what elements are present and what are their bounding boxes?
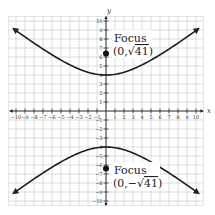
lower-focus-coords: (0,−√41) bbox=[113, 177, 162, 190]
svg-text:−5: −5 bbox=[57, 114, 64, 120]
svg-text:10: 10 bbox=[193, 114, 199, 120]
lower-focus-open: (0,− bbox=[113, 177, 137, 190]
svg-text:9: 9 bbox=[99, 27, 102, 33]
svg-text:8: 8 bbox=[176, 114, 179, 120]
svg-text:−4: −4 bbox=[66, 114, 73, 120]
lower-focus-title: Focus bbox=[114, 164, 147, 177]
lower-focus-close: ) bbox=[158, 177, 162, 190]
svg-text:−2: −2 bbox=[84, 114, 91, 120]
svg-text:−8: −8 bbox=[95, 180, 102, 186]
svg-text:2: 2 bbox=[122, 114, 125, 120]
svg-text:7: 7 bbox=[99, 45, 102, 51]
svg-text:−3: −3 bbox=[75, 114, 82, 120]
svg-text:−2: −2 bbox=[95, 126, 102, 132]
svg-text:−9: −9 bbox=[95, 189, 102, 195]
svg-text:−10: −10 bbox=[11, 114, 22, 120]
upper-focus-label: Focus (0,√41) bbox=[112, 30, 153, 58]
lower-focus-radicand: 41 bbox=[144, 177, 158, 190]
svg-text:−6: −6 bbox=[95, 162, 102, 168]
svg-text:10: 10 bbox=[96, 18, 102, 24]
svg-text:−5: −5 bbox=[95, 153, 102, 159]
upper-focus-open: (0, bbox=[113, 45, 128, 58]
lower-focus-point bbox=[103, 166, 109, 172]
svg-text:−7: −7 bbox=[95, 171, 102, 177]
svg-text:3: 3 bbox=[131, 114, 134, 120]
upper-focus-point bbox=[103, 50, 109, 56]
upper-focus-close: ) bbox=[149, 45, 153, 58]
svg-text:7: 7 bbox=[167, 114, 170, 120]
svg-text:8: 8 bbox=[99, 36, 102, 42]
svg-text:−8: −8 bbox=[30, 114, 37, 120]
svg-text:4: 4 bbox=[140, 114, 143, 120]
svg-text:3: 3 bbox=[99, 81, 102, 87]
svg-text:−9: −9 bbox=[21, 114, 28, 120]
svg-text:6: 6 bbox=[99, 54, 102, 60]
y-axis-label: y bbox=[106, 7, 112, 15]
svg-text:5: 5 bbox=[149, 114, 152, 120]
svg-text:2: 2 bbox=[99, 90, 102, 96]
svg-text:5: 5 bbox=[99, 63, 102, 69]
svg-text:−10: −10 bbox=[92, 198, 103, 204]
x-axis-label: x bbox=[207, 107, 211, 115]
svg-text:1: 1 bbox=[99, 99, 102, 105]
svg-text:−3: −3 bbox=[95, 135, 102, 141]
svg-text:1: 1 bbox=[113, 114, 116, 120]
upper-focus-coords: (0,√41) bbox=[113, 45, 153, 58]
svg-text:6: 6 bbox=[158, 114, 161, 120]
lower-focus-label: Focus (0,−√41) bbox=[112, 162, 162, 190]
upper-focus-radicand: 41 bbox=[135, 45, 149, 58]
svg-text:9: 9 bbox=[185, 114, 188, 120]
svg-text:−7: −7 bbox=[39, 114, 46, 120]
hyperbola-graph: −10−9−8−7−6−5−4−3−2−112345678910−10−9−8−… bbox=[0, 0, 215, 215]
svg-text:−1: −1 bbox=[95, 117, 102, 123]
svg-text:−6: −6 bbox=[48, 114, 55, 120]
upper-focus-title: Focus bbox=[114, 32, 147, 45]
